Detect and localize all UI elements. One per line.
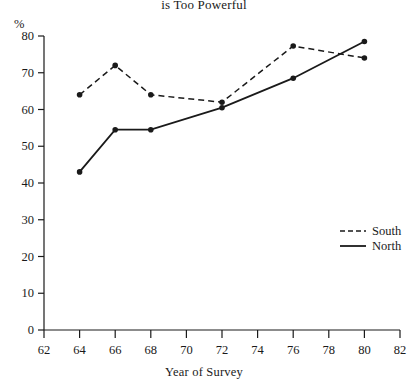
x-tick-label-64: 64 bbox=[65, 344, 95, 357]
y-tick-label-60: 60 bbox=[4, 104, 34, 117]
y-tick-label-40: 40 bbox=[4, 177, 34, 190]
x-tick-label-66: 66 bbox=[100, 344, 130, 357]
y-tick-label-80: 80 bbox=[4, 30, 34, 43]
plot-area bbox=[0, 0, 408, 382]
x-axis-title: Year of Survey bbox=[0, 366, 408, 379]
legend-label-north: North bbox=[372, 240, 401, 253]
y-tick-label-0: 0 bbox=[4, 324, 34, 337]
series-points-north bbox=[77, 39, 367, 175]
y-tick-label-20: 20 bbox=[4, 251, 34, 264]
x-tick-label-68: 68 bbox=[136, 344, 166, 357]
x-tick-label-70: 70 bbox=[171, 344, 201, 357]
x-tick-label-62: 62 bbox=[29, 344, 59, 357]
x-tick-label-76: 76 bbox=[278, 344, 308, 357]
x-tick-label-74: 74 bbox=[243, 344, 273, 357]
x-axis-ticks bbox=[44, 330, 400, 338]
y-tick-label-70: 70 bbox=[4, 67, 34, 80]
series-points-south bbox=[77, 43, 367, 105]
x-tick-label-82: 82 bbox=[385, 344, 408, 357]
y-tick-label-30: 30 bbox=[4, 214, 34, 227]
y-axis-ticks bbox=[38, 36, 44, 330]
y-tick-label-10: 10 bbox=[4, 287, 34, 300]
x-tick-label-72: 72 bbox=[207, 344, 237, 357]
x-tick-label-80: 80 bbox=[349, 344, 379, 357]
legend-label-south: South bbox=[372, 225, 401, 238]
y-tick-label-50: 50 bbox=[4, 140, 34, 153]
x-tick-label-78: 78 bbox=[314, 344, 344, 357]
series-line-south bbox=[80, 46, 365, 102]
chart-container: is Too Powerful % bbox=[0, 0, 408, 382]
